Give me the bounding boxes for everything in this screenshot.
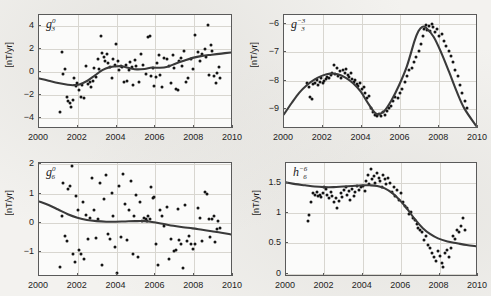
x-axis-tick-mark bbox=[477, 125, 478, 128]
y-axis-label: [nT/yr] bbox=[251, 190, 261, 216]
x-axis-tick-mark bbox=[77, 125, 78, 128]
y-axis-tick-label: −2 bbox=[24, 89, 34, 99]
x-axis-tick-mark bbox=[116, 125, 117, 128]
y-axis-tick-mark bbox=[38, 193, 41, 194]
x-axis-tick-label: 2006 bbox=[144, 132, 164, 142]
y-axis-tick-label: 1 bbox=[276, 207, 281, 217]
y-axis-tick-label: −7 bbox=[269, 46, 279, 56]
y-axis-tick-label: −8 bbox=[269, 75, 279, 85]
panel-g3-m3: g−33−6−7−8−9200020022004200620082010[nT/… bbox=[245, 0, 491, 148]
x-axis-tick-mark bbox=[193, 125, 194, 128]
x-axis-tick-label: 2008 bbox=[429, 280, 449, 290]
y-axis-tick-mark bbox=[283, 23, 286, 24]
x-axis-tick-label: 2008 bbox=[183, 132, 203, 142]
x-axis-tick-mark bbox=[399, 125, 400, 128]
figure-canvas: g03420−2−4200020022004200620082010[nT/yr… bbox=[0, 0, 491, 296]
label-subscript: 6 bbox=[303, 173, 307, 181]
x-axis-tick-label: 2004 bbox=[351, 132, 371, 142]
trend-curve bbox=[39, 15, 231, 128]
y-axis-tick-label: 2 bbox=[29, 43, 34, 53]
x-axis-tick-mark bbox=[285, 273, 286, 276]
y-axis-tick-mark bbox=[285, 182, 288, 183]
panel-h6-m6: h−661.510.50200020022004200620082010[nT/… bbox=[245, 148, 491, 296]
panel-g3-0: g03420−2−4200020022004200620082010[nT/yr… bbox=[0, 0, 245, 148]
y-axis-label: [nT/yr] bbox=[4, 190, 14, 216]
plot-area bbox=[38, 162, 232, 276]
x-axis-tick-label: 2000 bbox=[275, 280, 295, 290]
y-axis-tick-label: 0 bbox=[29, 217, 34, 227]
y-axis-tick-label: 2 bbox=[29, 158, 34, 168]
x-axis-tick-label: 2002 bbox=[67, 280, 87, 290]
y-axis-tick-mark bbox=[285, 212, 288, 213]
y-axis-tick-mark bbox=[38, 222, 41, 223]
trend-curve bbox=[39, 163, 231, 276]
y-axis-tick-mark bbox=[38, 48, 41, 49]
y-axis-tick-mark bbox=[283, 80, 286, 81]
x-axis-tick-mark bbox=[477, 273, 478, 276]
y-axis-tick-mark bbox=[285, 242, 288, 243]
x-axis-tick-label: 2000 bbox=[273, 132, 293, 142]
y-axis-tick-mark bbox=[38, 25, 41, 26]
x-axis-tick-mark bbox=[323, 273, 324, 276]
panel-label-g6_0: g06 bbox=[46, 166, 55, 181]
label-subscript: 3 bbox=[301, 25, 305, 33]
y-axis-tick-label: 1 bbox=[29, 188, 34, 198]
x-axis-tick-mark bbox=[400, 273, 401, 276]
y-axis-tick-mark bbox=[38, 71, 41, 72]
y-axis-tick-label: 1.5 bbox=[268, 177, 281, 187]
y-axis-label: [nT/yr] bbox=[4, 42, 14, 68]
x-axis-tick-label: 2006 bbox=[389, 132, 409, 142]
x-axis-tick-label: 2004 bbox=[106, 132, 126, 142]
y-axis-tick-label: −1 bbox=[24, 246, 34, 256]
x-axis-tick-label: 2010 bbox=[222, 132, 242, 142]
y-axis-tick-mark bbox=[38, 163, 41, 164]
x-axis-tick-mark bbox=[193, 273, 194, 276]
y-axis-label: [nT/yr] bbox=[249, 42, 259, 68]
y-axis-tick-mark bbox=[38, 94, 41, 95]
plot-area bbox=[285, 162, 477, 276]
x-axis-tick-mark bbox=[154, 125, 155, 128]
x-axis-tick-mark bbox=[116, 273, 117, 276]
x-axis-tick-mark bbox=[154, 273, 155, 276]
label-superscript: 0 bbox=[52, 165, 56, 173]
y-axis-tick-label: 0 bbox=[29, 66, 34, 76]
label-superscript: 0 bbox=[52, 17, 56, 25]
label-subscript: 6 bbox=[52, 173, 56, 181]
label-superscript: −3 bbox=[297, 17, 305, 25]
x-axis-tick-label: 2010 bbox=[222, 280, 242, 290]
trend-curve bbox=[286, 163, 476, 276]
x-axis-tick-label: 2010 bbox=[467, 132, 487, 142]
y-axis-tick-mark bbox=[283, 108, 286, 109]
label-superscript: −6 bbox=[299, 165, 307, 173]
y-axis-tick-label: −6 bbox=[269, 18, 279, 28]
x-axis-tick-mark bbox=[38, 273, 39, 276]
x-axis-tick-label: 2008 bbox=[428, 132, 448, 142]
x-axis-tick-label: 2006 bbox=[390, 280, 410, 290]
y-axis-tick-mark bbox=[38, 117, 41, 118]
x-axis-tick-label: 2006 bbox=[144, 280, 164, 290]
x-axis-tick-mark bbox=[438, 125, 439, 128]
plot-area bbox=[38, 14, 232, 128]
panel-label-h6_m6: h−66 bbox=[293, 166, 307, 181]
x-axis-tick-mark bbox=[232, 125, 233, 128]
y-axis-tick-label: 0 bbox=[276, 268, 281, 278]
x-axis-tick-mark bbox=[362, 273, 363, 276]
y-axis-tick-label: 4 bbox=[29, 20, 34, 30]
x-axis-tick-mark bbox=[77, 273, 78, 276]
y-axis-tick-label: −4 bbox=[24, 112, 34, 122]
x-axis-tick-label: 2004 bbox=[106, 280, 126, 290]
label-subscript: 3 bbox=[52, 25, 56, 33]
x-axis-tick-label: 2000 bbox=[28, 132, 48, 142]
x-axis-tick-mark bbox=[361, 125, 362, 128]
panel-label-g3_0: g03 bbox=[46, 18, 55, 33]
x-axis-tick-label: 2010 bbox=[467, 280, 487, 290]
x-axis-tick-label: 2004 bbox=[352, 280, 372, 290]
x-axis-tick-mark bbox=[439, 273, 440, 276]
y-axis-tick-label: −9 bbox=[269, 103, 279, 113]
y-axis-tick-label: 0.5 bbox=[268, 237, 281, 247]
panel-label-g3_m3: g−33 bbox=[291, 18, 305, 33]
y-axis-tick-mark bbox=[38, 251, 41, 252]
x-axis-tick-label: 2008 bbox=[183, 280, 203, 290]
x-axis-tick-label: 2002 bbox=[67, 132, 87, 142]
y-axis-tick-mark bbox=[283, 51, 286, 52]
